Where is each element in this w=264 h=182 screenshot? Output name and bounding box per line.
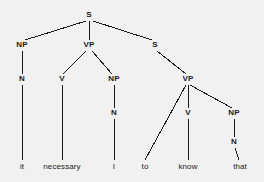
tree-node-n-3: N <box>231 138 237 146</box>
tree-leaf-i: I <box>113 163 115 171</box>
tree-edge <box>235 148 239 160</box>
tree-node-s-2: S <box>152 41 157 49</box>
tree-leaf-to: to <box>142 163 149 171</box>
tree-node-np-2: NP <box>108 75 119 83</box>
tree-edge <box>157 51 186 74</box>
tree-edges-layer <box>0 0 264 182</box>
tree-node-n-1: N <box>19 75 25 83</box>
tree-node-n-2: N <box>111 109 117 117</box>
tree-edge <box>190 85 232 108</box>
tree-leaf-know: know <box>178 163 197 171</box>
tree-leaf-it: it <box>20 163 24 171</box>
tree-node-vp-1: VP <box>84 41 95 49</box>
tree-leaf-that: that <box>233 163 247 171</box>
tree-node-v-2: V <box>185 109 190 117</box>
tree-edge <box>63 51 86 74</box>
tree-leaf-necessary: necessary <box>43 163 80 171</box>
tree-edge <box>25 21 86 40</box>
syntax-tree-diagram: SNPVPSNVNPVPNVNPNitnecessaryItoknowthat <box>0 0 264 182</box>
tree-edge <box>92 51 112 74</box>
tree-edge <box>93 21 152 40</box>
tree-node-v-1: V <box>59 75 64 83</box>
tree-node-np-3: NP <box>228 109 239 117</box>
tree-node-s-root: S <box>86 11 91 19</box>
tree-node-np-1: NP <box>16 41 27 49</box>
tree-node-vp-2: VP <box>183 75 194 83</box>
tree-edge <box>145 85 186 160</box>
